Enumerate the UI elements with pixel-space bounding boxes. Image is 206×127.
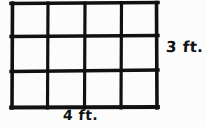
width-dimension-label: 4 ft. (63, 108, 99, 122)
grid-line-right (157, 3, 158, 109)
grid-drawing (0, 0, 206, 127)
height-dimension-label: 3 ft. (166, 40, 204, 55)
grid-line-col1 (48, 3, 49, 108)
grid-line-left (12, 3, 13, 108)
grid-rectangle-diagram: 3 ft. 4 ft. (0, 0, 206, 127)
grid-vertical-lines (12, 3, 157, 109)
grid-line-col3 (121, 3, 122, 108)
grid-line-col2 (85, 3, 86, 108)
